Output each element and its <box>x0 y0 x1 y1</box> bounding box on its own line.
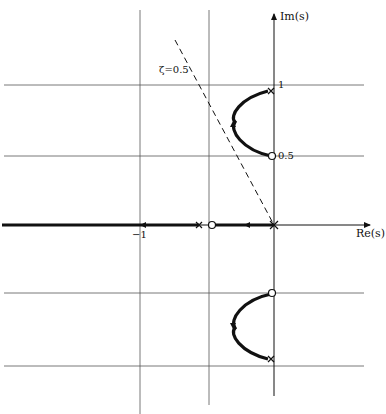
zero-circle-icon <box>269 153 276 160</box>
tick-label-1: 1 <box>278 79 284 90</box>
pole-x-icon <box>268 356 274 362</box>
im-axis-label: Im(s) <box>280 10 309 23</box>
root-locus-plot: Im(s) Re(s) −1 1 0.5 ζ=0.5 <box>0 0 386 414</box>
direction-arrow-icon <box>140 222 146 228</box>
pole-x-icon <box>268 88 274 94</box>
direction-arrow-icon <box>244 222 250 228</box>
locus-branch-lower <box>233 294 271 359</box>
damping-ratio-line <box>175 40 274 225</box>
tick-label-0-5: 0.5 <box>278 150 294 161</box>
zero-circle-icon <box>269 290 276 297</box>
zero-circle-icon <box>209 222 216 229</box>
tick-label-minus1: −1 <box>132 229 147 240</box>
locus-branch-upper <box>233 91 271 156</box>
damping-ratio-label: ζ=0.5 <box>159 64 189 75</box>
re-axis-label: Re(s) <box>356 227 385 240</box>
